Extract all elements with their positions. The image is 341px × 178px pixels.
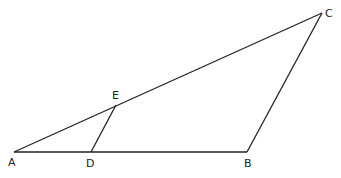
- segment-ca: [14, 13, 322, 152]
- label-c: C: [325, 7, 333, 20]
- segment-bc: [247, 13, 322, 152]
- label-b: B: [244, 157, 252, 170]
- label-e: E: [112, 89, 119, 102]
- label-a: A: [8, 156, 16, 169]
- label-d: D: [86, 157, 94, 170]
- triangle-diagram: A D B C E: [0, 0, 341, 178]
